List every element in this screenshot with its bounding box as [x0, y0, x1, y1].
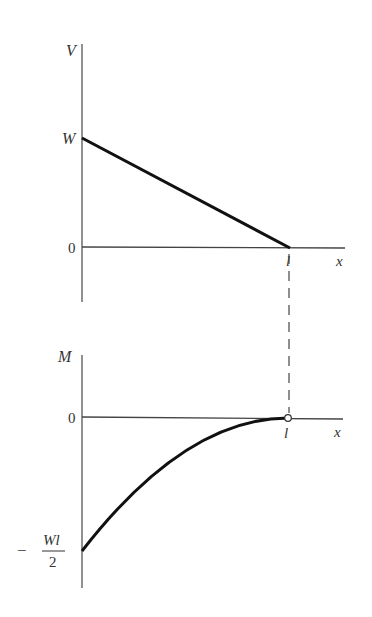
shear-x-axis [82, 247, 345, 248]
shear-y-intercept-label: W [62, 130, 77, 147]
shear-line [82, 138, 290, 248]
shear-origin-label: 0 [68, 240, 76, 256]
moment-y-axis-label: M [57, 348, 73, 365]
moment-x-axis-label: x [333, 424, 341, 440]
shear-x-axis-label: x [335, 253, 343, 269]
moment-x-axis [82, 417, 343, 419]
fraction-denominator: 2 [49, 554, 57, 570]
moment-origin-label: 0 [68, 410, 76, 426]
shear-y-axis-label: V [66, 42, 78, 59]
moment-x-end-label: l [284, 425, 288, 441]
fraction-numerator: Wl [43, 532, 60, 548]
moment-y-intercept-label: − Wl 2 [17, 532, 65, 570]
shear-plot: V W 0 l x [62, 42, 345, 302]
moment-plot: M 0 l x − Wl 2 [17, 348, 343, 588]
moment-curve [82, 418, 288, 551]
minus-sign: − [17, 541, 27, 560]
shear-moment-diagram: V W 0 l x M 0 l x − Wl 2 [0, 0, 372, 617]
hinge-point-icon [285, 415, 292, 422]
